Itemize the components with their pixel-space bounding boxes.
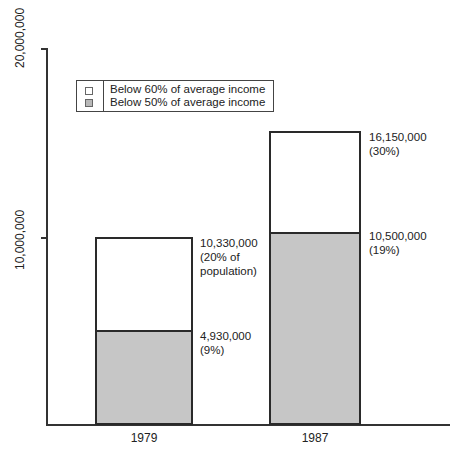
bar-1987-below-50 bbox=[269, 232, 361, 425]
annotation-1987-below-60: 16,150,000 (30%) bbox=[369, 130, 427, 158]
legend-swatch-column bbox=[77, 81, 104, 111]
x-label-1979: 1979 bbox=[94, 431, 194, 445]
annotation-1979-below-60: 10,330,000 (20% of population) bbox=[200, 236, 258, 278]
y-tick-20m bbox=[41, 48, 47, 50]
legend-swatch-white-icon bbox=[85, 87, 93, 95]
legend-item-60pct: Below 60% of average income bbox=[110, 83, 265, 95]
annotation-line: 10,330,000 bbox=[200, 236, 258, 250]
annotation-line: 4,930,000 bbox=[200, 329, 251, 343]
legend: Below 60% of average income Below 50% of… bbox=[76, 80, 274, 112]
annotation-line: 16,150,000 bbox=[369, 130, 427, 144]
x-label-1987: 1987 bbox=[265, 431, 365, 445]
bar-1979-below-60 bbox=[95, 237, 193, 332]
annotation-line: (20% of bbox=[200, 250, 258, 264]
annotation-line: (30%) bbox=[369, 144, 427, 158]
y-tick-label-20m: 20,000,000 bbox=[13, 8, 27, 68]
legend-item-50pct: Below 50% of average income bbox=[110, 96, 265, 108]
annotation-line: (9%) bbox=[200, 343, 251, 357]
bar-1987-below-60 bbox=[269, 131, 361, 234]
annotation-1979-below-50: 4,930,000 (9%) bbox=[200, 329, 251, 357]
annotation-line: population) bbox=[200, 264, 258, 278]
annotation-1987-below-50: 10,500,000 (19%) bbox=[369, 229, 427, 257]
bar-1979-below-50 bbox=[95, 330, 193, 425]
annotation-line: 10,500,000 bbox=[369, 229, 427, 243]
y-tick-label-10m: 10,000,000 bbox=[13, 210, 27, 270]
y-tick-10m bbox=[41, 237, 47, 239]
legend-swatch-gray-icon bbox=[85, 99, 93, 107]
annotation-line: (19%) bbox=[369, 243, 427, 257]
